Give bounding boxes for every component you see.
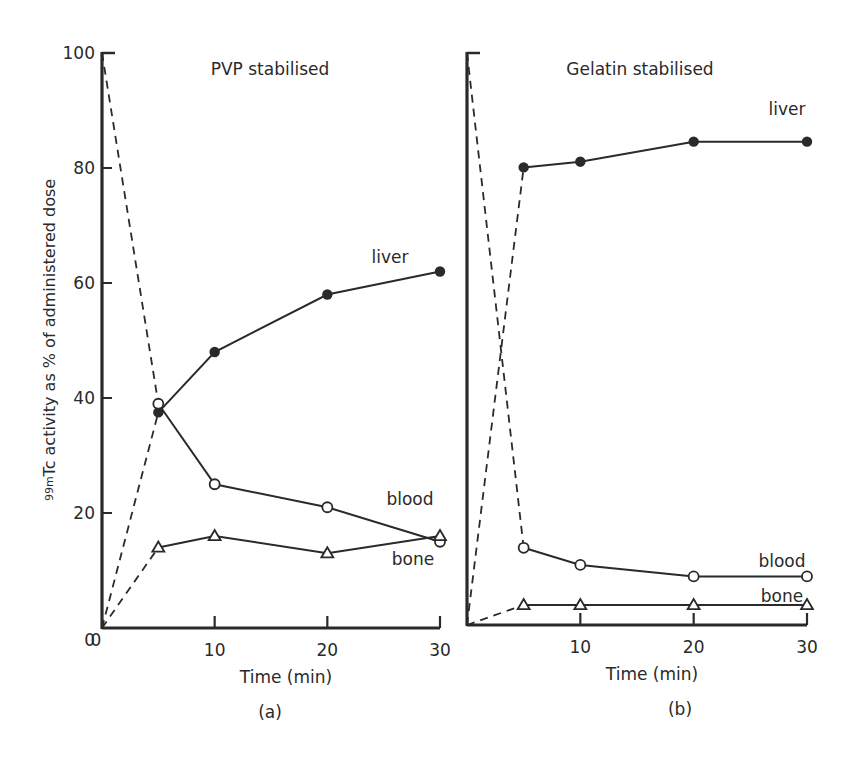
liver-point (322, 289, 332, 299)
x-axis-label: Time (min) (605, 664, 698, 684)
y-axis-label: 99mTc activity as % of administered dose (40, 179, 59, 501)
blood-point (210, 479, 220, 489)
x-axis-label: Time (min) (239, 667, 332, 687)
blood-line (158, 404, 440, 542)
y-tick-label: 20 (73, 503, 95, 523)
figure: 10203002040608010099mTc activity as % of… (0, 0, 854, 762)
liver-point (688, 136, 698, 146)
blood-series-label: blood (386, 489, 433, 509)
x-tick-label: 10 (204, 640, 226, 660)
bone-point (209, 530, 221, 540)
blood-series-label: blood (758, 551, 805, 571)
y-tick-label: 60 (73, 273, 95, 293)
bone-dashed-segment (467, 605, 524, 625)
bone-point (434, 530, 446, 540)
y-tick-label: 40 (73, 388, 95, 408)
blood-point (689, 571, 699, 581)
liver-point (435, 266, 445, 276)
blood-dashed-segment (102, 53, 158, 404)
liver-dashed-segment (102, 412, 158, 628)
blood-point (802, 571, 812, 581)
blood-point (322, 502, 332, 512)
liver-series-label: liver (372, 247, 409, 267)
blood-dashed-segment (467, 53, 524, 548)
y-tick-label: 80 (73, 158, 95, 178)
x-tick-label: 20 (317, 640, 339, 660)
liver-point (209, 347, 219, 357)
liver-series-label: liver (769, 99, 806, 119)
bone-series-label: bone (392, 549, 434, 569)
liver-point (575, 156, 585, 166)
chart-panel-a: 10203002040608010099mTc activity as % of… (40, 43, 451, 722)
y-tick-label: 100 (63, 43, 95, 63)
x-tick-label: 20 (683, 637, 705, 657)
blood-point (575, 560, 585, 570)
panel-caption: (a) (258, 702, 282, 722)
x-tick-label: 10 (570, 637, 592, 657)
x-tick-label: 30 (429, 640, 451, 660)
liver-line (158, 272, 440, 413)
panel-caption: (b) (668, 699, 692, 719)
blood-point (153, 399, 163, 409)
panel-title: PVP stabilised (211, 59, 330, 79)
bone-dashed-segment (102, 548, 158, 629)
liver-dashed-segment (467, 167, 524, 625)
blood-point (519, 543, 529, 553)
chart-panel-b: 102030Gelatin stabilisedTime (min)(b)liv… (467, 52, 818, 719)
liver-point (802, 136, 812, 146)
panel-title: Gelatin stabilised (566, 59, 713, 79)
liver-point (518, 162, 528, 172)
bone-series-label: bone (761, 586, 803, 606)
x-tick-label: 30 (796, 637, 818, 657)
liver-line (524, 142, 807, 168)
x-origin-label-a: 0 (91, 630, 102, 650)
